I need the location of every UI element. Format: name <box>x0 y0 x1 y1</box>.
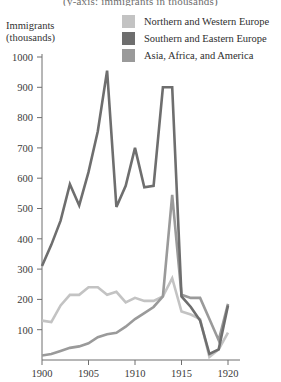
immigration-line-chart: (y-axis: immigrants in thousands) Immigr… <box>0 0 281 382</box>
x-axis-ticks: 19001905191019151920 <box>32 360 239 379</box>
svg-text:400: 400 <box>17 234 33 245</box>
svg-text:100: 100 <box>17 325 33 336</box>
data-series-group <box>42 71 228 357</box>
svg-text:700: 700 <box>17 143 33 154</box>
plot-area: 1002003004005006007008009001000 19001905… <box>0 0 281 382</box>
svg-text:500: 500 <box>17 203 33 214</box>
svg-text:1000: 1000 <box>12 52 33 63</box>
svg-text:1915: 1915 <box>171 368 192 379</box>
svg-text:600: 600 <box>17 173 33 184</box>
svg-text:200: 200 <box>17 294 33 305</box>
svg-text:1900: 1900 <box>32 368 53 379</box>
y-axis-ticks: 1002003004005006007008009001000 <box>12 52 42 336</box>
series-line-asia-africa-and-america <box>42 195 228 356</box>
series-line-southern-and-eastern-europe <box>42 71 228 354</box>
svg-text:900: 900 <box>17 82 33 93</box>
svg-text:1905: 1905 <box>78 368 99 379</box>
svg-text:800: 800 <box>17 112 33 123</box>
svg-text:1910: 1910 <box>125 368 146 379</box>
svg-text:300: 300 <box>17 264 33 275</box>
svg-text:1920: 1920 <box>218 368 239 379</box>
